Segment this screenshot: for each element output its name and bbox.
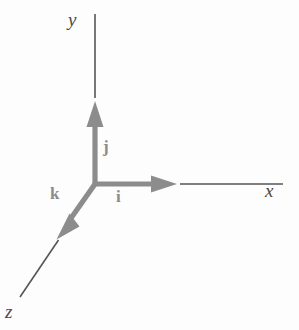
y-axis-label: y <box>68 10 76 29</box>
x-axis-label: x <box>265 181 273 200</box>
coordinate-axes-figure: y x z i j k <box>0 0 299 330</box>
z-axis-line <box>20 240 59 297</box>
unit-vector-k-arrowhead <box>57 214 80 240</box>
unit-vector-j-label: j <box>103 138 109 155</box>
unit-vector-k-label: k <box>50 185 59 202</box>
z-axis-label: z <box>5 302 12 321</box>
unit-vector-j-arrowhead <box>87 101 104 127</box>
axes-diagram-svg <box>0 0 299 330</box>
unit-vector-i-arrowhead <box>151 176 177 193</box>
unit-vector-i-label: i <box>116 188 121 205</box>
unit-vector-k-shaft <box>69 184 95 221</box>
